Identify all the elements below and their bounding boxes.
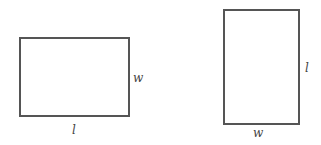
landscape-width-label: w xyxy=(133,72,143,84)
landscape-rectangle xyxy=(19,37,130,117)
portrait-width-label: w xyxy=(253,127,263,139)
portrait-length-label: l xyxy=(305,62,309,74)
portrait-rectangle xyxy=(223,9,300,125)
landscape-length-label: l xyxy=(72,124,76,136)
